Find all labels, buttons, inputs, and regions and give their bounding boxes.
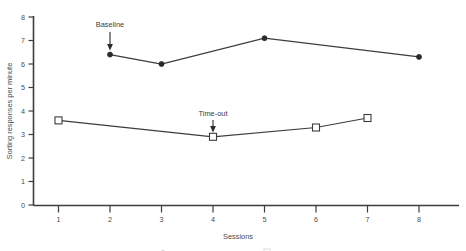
- x-axis: 1 2 3 4 5 6 7 8 Sessions: [34, 206, 460, 242]
- y-tick-label-4: 4: [21, 107, 25, 116]
- x-tick-label-8: 8: [417, 215, 421, 224]
- x-tick-label-7: 7: [366, 215, 370, 224]
- y-tick-label-1: 1: [21, 177, 25, 186]
- y-tick-label-7: 7: [21, 36, 25, 45]
- y-tick-label-3: 3: [21, 130, 25, 139]
- x-axis-title: Sessions: [223, 232, 253, 241]
- x-tick-label-2: 2: [108, 215, 112, 224]
- data-point-baseline-s8: [417, 54, 422, 59]
- x-tick-label-3: 3: [160, 215, 164, 224]
- data-point-baseline-s3: [159, 62, 164, 67]
- data-point-baseline-s5: [262, 36, 267, 41]
- x-tick-label-1: 1: [57, 215, 61, 224]
- data-point-timeout-s1: [55, 117, 62, 124]
- chart-figure: 0 1 2 3 4 5 6 7 8 Sorting responses per …: [0, 0, 466, 251]
- annotation-timeout-arrow-head: [210, 126, 216, 133]
- x-tick-label-6: 6: [314, 215, 318, 224]
- y-tick-label-2: 2: [21, 154, 25, 163]
- annotation-timeout-label: Time-out: [199, 109, 228, 118]
- data-point-timeout-s6: [313, 124, 320, 131]
- y-tick-label-0: 0: [21, 201, 25, 210]
- annotation-baseline: Baseline: [96, 20, 124, 51]
- x-tick-label-4: 4: [211, 215, 215, 224]
- x-axis-ticks: [59, 206, 420, 213]
- data-point-timeout-s4: [210, 133, 217, 140]
- x-axis-tick-labels: 1 2 3 4 5 6 7 8: [57, 215, 422, 224]
- y-axis-tick-labels: 0 1 2 3 4 5 6 7 8: [21, 13, 25, 210]
- y-tick-label-8: 8: [21, 13, 25, 22]
- x-tick-label-5: 5: [263, 215, 267, 224]
- y-tick-label-6: 6: [21, 60, 25, 69]
- y-axis-title: Sorting responses per minute: [5, 63, 14, 160]
- series-baseline: [108, 36, 422, 67]
- line-chart-canvas: 0 1 2 3 4 5 6 7 8 Sorting responses per …: [0, 0, 466, 251]
- legend-cropped: [0, 246, 466, 251]
- y-axis: 0 1 2 3 4 5 6 7 8 Sorting responses per …: [5, 13, 34, 210]
- data-point-timeout-s7: [364, 115, 371, 122]
- annotation-timeout: Time-out: [199, 109, 228, 133]
- legend-cropped-canvas: [0, 246, 466, 251]
- annotation-baseline-label: Baseline: [96, 20, 124, 29]
- annotation-baseline-arrow-head: [107, 44, 113, 51]
- y-tick-label-5: 5: [21, 83, 25, 92]
- series-baseline-line: [110, 38, 419, 64]
- data-point-baseline-s2: [108, 52, 113, 57]
